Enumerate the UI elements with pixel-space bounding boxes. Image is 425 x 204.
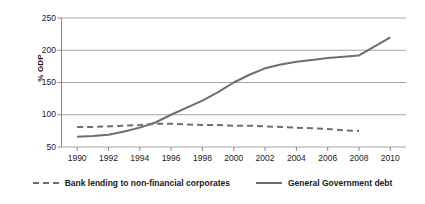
x-tick-label: 2004 <box>279 154 313 163</box>
legend-item: Bank lending to non-financial corporates <box>33 178 230 188</box>
x-tick-label: 1994 <box>123 154 157 163</box>
x-tick-label: 2008 <box>342 154 376 163</box>
x-tick-label: 1996 <box>154 154 188 163</box>
y-tick-label: 250 <box>28 14 56 23</box>
series-line <box>77 124 359 131</box>
x-tick-label: 2010 <box>373 154 407 163</box>
x-tick-label: 1998 <box>185 154 219 163</box>
plot-area <box>0 0 425 204</box>
y-tick-label: 50 <box>28 143 56 152</box>
x-tick-label: 1990 <box>60 154 94 163</box>
y-tick-label: 150 <box>28 78 56 87</box>
y-axis-tick-labels: 50100150200250 <box>26 0 56 204</box>
chart-legend: Bank lending to non-financial corporates… <box>0 178 425 188</box>
chart-container: % GDP 50100150200250 1990199219941996199… <box>0 0 425 204</box>
x-tick-label: 1992 <box>91 154 125 163</box>
legend-label: General Government debt <box>288 178 392 188</box>
legend-label: Bank lending to non-financial corporates <box>65 178 230 188</box>
legend-item: General Government debt <box>256 178 392 188</box>
y-tick-label: 100 <box>28 110 56 119</box>
legend-line-swatch <box>33 182 59 184</box>
x-tick-label: 2006 <box>311 154 345 163</box>
x-tick-label: 2000 <box>217 154 251 163</box>
legend-line-swatch <box>256 182 282 184</box>
y-tick-label: 200 <box>28 46 56 55</box>
x-tick-label: 2002 <box>248 154 282 163</box>
series-line <box>77 37 390 136</box>
